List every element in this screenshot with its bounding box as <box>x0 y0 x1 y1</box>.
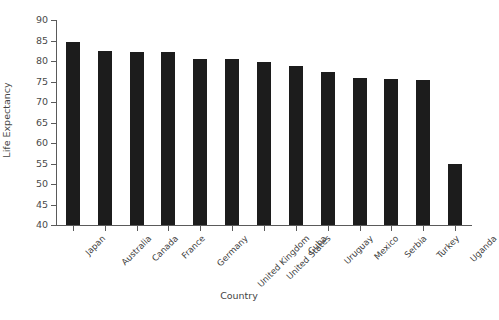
x-axis-tick <box>200 226 201 231</box>
bar <box>289 66 303 225</box>
y-axis-tick-label: 80 <box>2 56 48 66</box>
y-axis-tick-label-wrap: 50 <box>0 179 48 189</box>
bar <box>130 52 144 225</box>
x-axis-title: Country <box>0 290 478 301</box>
x-axis-tick <box>73 226 74 231</box>
bar <box>416 80 430 225</box>
x-axis-tick-label: Germany <box>216 234 250 268</box>
bar <box>384 79 398 225</box>
y-axis-tick-label-wrap: 55 <box>0 159 48 169</box>
y-axis-tick-label-wrap: 85 <box>0 36 48 46</box>
y-axis-tick-label: 65 <box>2 118 48 128</box>
x-axis-tick <box>328 226 329 231</box>
bar <box>193 59 207 225</box>
y-axis-tick-label: 40 <box>2 220 48 230</box>
bar <box>353 78 367 225</box>
y-axis-tick-label: 60 <box>2 138 48 148</box>
x-axis-tick-label: Serbia <box>403 234 428 259</box>
y-axis-tick-label-wrap: 65 <box>0 118 48 128</box>
y-axis-tick-label: 50 <box>2 179 48 189</box>
plot-area <box>57 20 471 225</box>
x-axis-tick <box>360 226 361 231</box>
bar <box>66 42 80 225</box>
x-axis-tick-label: Japan <box>84 234 107 257</box>
x-axis-tick-label: Uruguay <box>342 234 374 266</box>
y-axis-tick-label: 70 <box>2 97 48 107</box>
x-axis-tick <box>137 226 138 231</box>
y-axis-tick-label-wrap: 70 <box>0 97 48 107</box>
x-axis-tick <box>168 226 169 231</box>
y-axis-tick-label: 90 <box>2 15 48 25</box>
y-axis-tick-label: 85 <box>2 36 48 46</box>
bar <box>321 72 335 225</box>
bar <box>257 62 271 225</box>
bar <box>225 59 239 225</box>
y-axis-tick-label: 75 <box>2 77 48 87</box>
y-axis-tick-label-wrap: 90 <box>0 15 48 25</box>
y-axis-tick-label-wrap: 75 <box>0 77 48 87</box>
x-axis-tick-label: Australia <box>120 234 153 267</box>
x-axis-tick <box>423 226 424 231</box>
x-axis-tick <box>105 226 106 231</box>
y-axis-tick-label-wrap: 45 <box>0 200 48 210</box>
x-axis-tick <box>455 226 456 231</box>
x-axis-tick-label: Canada <box>150 234 179 263</box>
x-axis-tick-label: France <box>181 234 207 260</box>
y-axis-tick-label-wrap: 80 <box>0 56 48 66</box>
y-axis-tick <box>51 225 57 226</box>
x-axis-tick <box>264 226 265 231</box>
bar <box>98 51 112 225</box>
bar <box>161 52 175 225</box>
x-axis-tick <box>296 226 297 231</box>
y-axis-tick-label: 55 <box>2 159 48 169</box>
x-axis-tick-label: Mexico <box>372 234 399 261</box>
y-axis-tick-label: 45 <box>2 200 48 210</box>
x-axis-tick-label: Turkey <box>435 234 461 260</box>
bar <box>448 164 462 226</box>
x-axis-tick <box>232 226 233 231</box>
y-axis-tick-label-wrap: 60 <box>0 138 48 148</box>
x-axis-tick-label: Uganda <box>469 234 499 264</box>
y-axis-tick-label-wrap: 40 <box>0 220 48 230</box>
x-axis-tick <box>391 226 392 231</box>
